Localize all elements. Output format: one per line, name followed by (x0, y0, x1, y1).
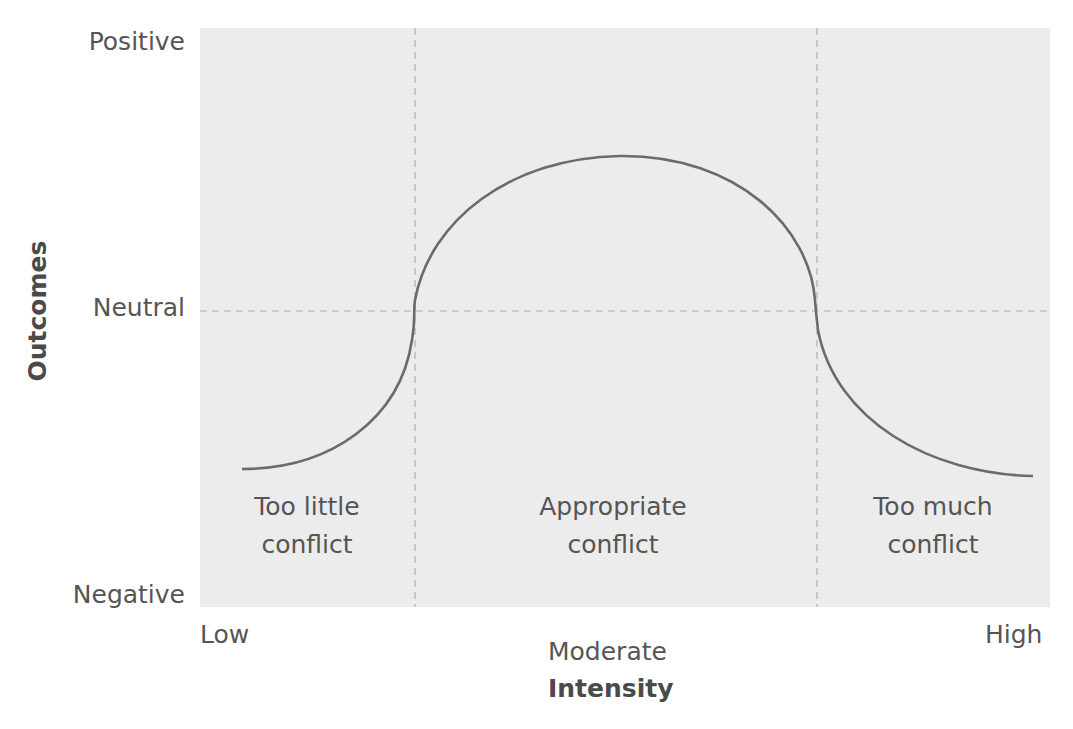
x-tick-low: Low (200, 620, 249, 649)
region-label-too-much: Too much conflict (833, 488, 1033, 564)
chart-lines (0, 0, 1073, 729)
y-axis-title: Outcomes (23, 241, 52, 382)
region-label-too-little: Too little conflict (207, 488, 407, 564)
y-tick-neutral: Neutral (93, 293, 185, 322)
x-tick-high: High (985, 620, 1042, 649)
region-label-appropriate-line1: Appropriate (513, 488, 713, 526)
region-label-too-much-line2: conflict (833, 526, 1033, 564)
outcome-curve (242, 156, 1033, 476)
y-tick-negative: Negative (73, 580, 185, 609)
region-label-appropriate-line2: conflict (513, 526, 713, 564)
x-tick-moderate: Moderate (548, 637, 667, 666)
x-axis-title: Intensity (548, 674, 674, 703)
region-label-too-little-line2: conflict (207, 526, 407, 564)
y-tick-positive: Positive (89, 27, 185, 56)
region-label-appropriate: Appropriate conflict (513, 488, 713, 564)
region-label-too-little-line1: Too little (207, 488, 407, 526)
region-label-too-much-line1: Too much (833, 488, 1033, 526)
